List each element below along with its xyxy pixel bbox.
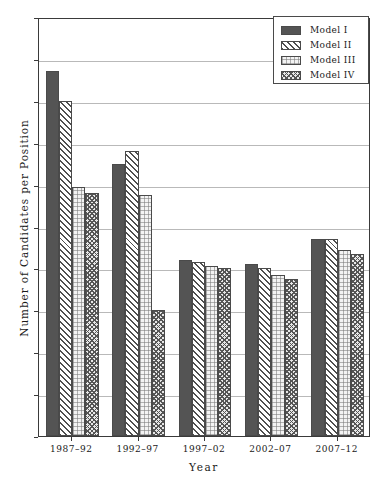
bar [311,239,324,436]
x-tick-mark [71,437,72,441]
bar [258,268,271,436]
legend-item: Model I [281,23,368,37]
legend-item-label: Model II [310,40,352,50]
bar [139,195,152,436]
bar [325,239,338,436]
bar [72,187,85,436]
bar [338,250,351,436]
x-tick-label: 1992–97 [116,444,158,454]
bar [179,260,192,436]
x-tick-label: 1997–02 [183,444,225,454]
legend-item-label: Model III [310,55,356,65]
legend-item: Model II [281,38,368,52]
bar [46,71,59,436]
x-tick-mark [204,437,205,441]
legend-item-label: Model I [310,25,348,35]
bar [85,193,98,436]
bar [125,151,138,436]
x-tick-mark [270,437,271,441]
legend-swatch-icon [281,41,301,50]
y-tick-mark [34,437,38,438]
bar [59,101,72,436]
gridline [39,187,369,188]
bar [351,254,364,436]
x-tick-label: 2007–12 [316,444,358,454]
x-tick-label: 2002–07 [249,444,291,454]
gridline [39,103,369,104]
bar [218,268,231,436]
legend-item-label: Model IV [310,70,355,80]
x-tick-label: 1987–92 [50,444,92,454]
legend-swatch-icon [281,26,301,35]
legend-swatch-icon [281,56,301,65]
x-axis-title: Year [38,461,370,473]
bar [205,266,218,436]
bar [112,164,125,436]
legend-swatch-icon [281,71,301,80]
legend-item: Model III [281,53,368,67]
x-tick-mark [138,437,139,441]
chart-legend: Model IModel IIModel IIIModel IV [273,16,369,84]
legend-item: Model IV [281,68,368,82]
bar [285,279,298,436]
bar [192,262,205,436]
bar [152,310,165,436]
bar [245,264,258,436]
bar-chart: Number of Candidates per Position Year 0… [0,0,376,481]
bar [271,275,284,436]
x-tick-mark [337,437,338,441]
y-axis-title: Number of Candidates per Position [18,118,30,338]
gridline [39,145,369,146]
